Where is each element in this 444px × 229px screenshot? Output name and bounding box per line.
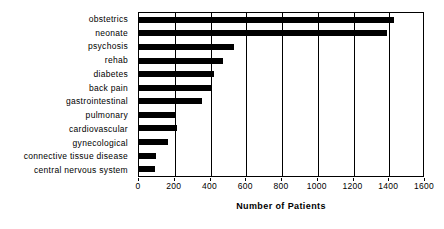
bar	[139, 17, 394, 23]
tick-label: 800	[273, 181, 288, 191]
category-label: back pain	[89, 83, 133, 93]
bar-row	[139, 137, 423, 147]
category-label: gastrointestinal	[66, 96, 133, 106]
tick-label: 1000	[307, 181, 327, 191]
bar-row	[139, 56, 423, 66]
tick-label: 1600	[414, 181, 434, 191]
bar	[139, 30, 387, 36]
bar-row	[139, 15, 423, 25]
bar-row	[139, 164, 423, 174]
bar-row	[139, 83, 423, 93]
category-label: central nervous system	[34, 165, 133, 175]
bar	[139, 71, 214, 77]
bar-row	[139, 42, 423, 52]
category-label: diabetes	[93, 69, 133, 79]
bar	[139, 85, 212, 91]
x-axis-ticks: 02004006008001000120014001600	[138, 178, 424, 190]
bar	[139, 166, 155, 172]
bar-row	[139, 28, 423, 38]
bar-row	[139, 96, 423, 106]
tick-label: 1200	[342, 181, 362, 191]
bar-row	[139, 110, 423, 120]
tick-label: 200	[166, 181, 181, 191]
bar	[139, 112, 176, 118]
category-label: neonate	[95, 28, 133, 38]
category-label: obstetrics	[89, 14, 133, 24]
tick-label: 600	[238, 181, 253, 191]
bar	[139, 153, 156, 159]
category-label: pulmonary	[86, 110, 133, 120]
category-label: connective tissue disease	[24, 151, 133, 161]
tick-label: 0	[135, 181, 140, 191]
bar-row	[139, 123, 423, 133]
bars-layer	[139, 13, 423, 176]
bar	[139, 58, 223, 64]
bar	[139, 139, 168, 145]
bar-chart-figure: obstetrics neonate psychosis rehab diabe…	[0, 0, 444, 229]
category-label: gynecological	[73, 138, 133, 148]
tick-label: 400	[202, 181, 217, 191]
bar-row	[139, 151, 423, 161]
bar	[139, 44, 234, 50]
tick-label: 1400	[378, 181, 398, 191]
plot-area	[138, 12, 424, 177]
category-label: psychosis	[88, 41, 133, 51]
category-label: cardiovascular	[69, 124, 133, 134]
bar	[139, 98, 202, 104]
category-label: rehab	[105, 55, 133, 65]
x-axis-title: Number of Patients	[138, 201, 424, 211]
bar-row	[139, 69, 423, 79]
category-axis: obstetrics neonate psychosis rehab diabe…	[0, 12, 133, 177]
bar	[139, 125, 177, 131]
